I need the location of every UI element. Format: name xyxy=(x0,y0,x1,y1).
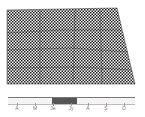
month-label[interactable]: M xyxy=(30,105,40,111)
region-map xyxy=(0,0,145,90)
month-label[interactable]: O xyxy=(119,105,129,111)
month-label[interactable]: S xyxy=(101,105,111,111)
month-label[interactable]: A xyxy=(83,105,93,111)
region-shape xyxy=(7,8,135,84)
month-label[interactable]: Jy xyxy=(66,105,76,111)
timeline-selected-range[interactable] xyxy=(52,98,77,104)
month-label[interactable]: Je xyxy=(48,105,58,111)
month-label[interactable]: A xyxy=(12,105,22,111)
